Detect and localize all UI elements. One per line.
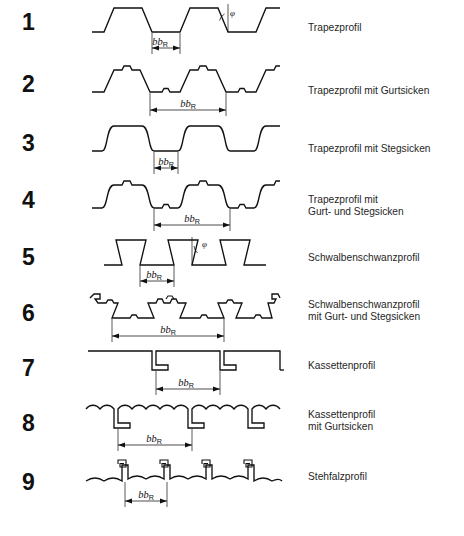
profile-label-3: Trapezprofil mit Stegsicken xyxy=(308,143,464,155)
profile-label-2: Trapezprofil mit Gurtsicken xyxy=(308,85,464,97)
profile-label-4: Trapezprofil mit Gurt- und Stegsicken xyxy=(308,194,464,219)
row-number-8: 8 xyxy=(22,412,62,435)
dimension-label-br: bbR xyxy=(178,377,194,390)
profile-label-9: Stehfalzprofil xyxy=(308,471,464,483)
row-number-7: 7 xyxy=(22,357,62,380)
row-number-6: 6 xyxy=(22,302,62,325)
row-number-5: 5 xyxy=(22,246,62,269)
profile-drawing-standing-seam: bbR xyxy=(84,455,284,515)
profile-drawing-dovetail-flange-and-web-stiffeners: bbR xyxy=(84,288,284,346)
dimension-label-br: bbR xyxy=(184,213,200,226)
dimension-label-br: bbR xyxy=(180,98,196,111)
dimension-label-br: bbR xyxy=(138,489,154,502)
row-number-2: 2 xyxy=(22,73,62,96)
profile-label-5: Schwalbenschwanzprofil xyxy=(308,252,464,264)
profile-types-diagram: 1 φ bbR Trapezprofil 2 xyxy=(0,0,464,536)
profile-label-1: Trapezprofil xyxy=(308,22,464,34)
dimension-label-br: bbR xyxy=(146,433,162,446)
row-number-1: 1 xyxy=(22,11,62,34)
dimension-label-br: bbR xyxy=(160,324,176,337)
angle-symbol-phi: φ xyxy=(202,239,207,249)
profile-drawing-trapezoid-flange-stiffeners: bbR xyxy=(84,60,284,122)
profile-label-7: Kassettenprofil xyxy=(308,360,464,372)
row-number-4: 4 xyxy=(22,189,62,212)
profile-label-6: Schwalbenschwanzprofil mit Gurt- und Ste… xyxy=(308,299,464,324)
profile-drawing-cassette-flange-stiffeners: bbR xyxy=(84,398,284,456)
profile-drawing-cassette: bbR xyxy=(84,343,284,401)
profile-label-8: Kassettenprofil mit Gurtsicken xyxy=(308,409,464,434)
profile-drawing-dovetail: φ bbR xyxy=(84,234,284,294)
profile-drawing-trapezoid-web-stiffeners: bbR xyxy=(84,118,284,180)
profile-drawing-trapezoid: φ bbR xyxy=(84,0,284,62)
angle-symbol-phi: φ xyxy=(230,8,235,18)
profile-drawing-trapezoid-flange-and-web-stiffeners: bbR xyxy=(84,175,284,237)
row-number-3: 3 xyxy=(22,132,62,155)
dimension-label-br: bbR xyxy=(146,269,162,282)
row-number-9: 9 xyxy=(22,471,62,494)
